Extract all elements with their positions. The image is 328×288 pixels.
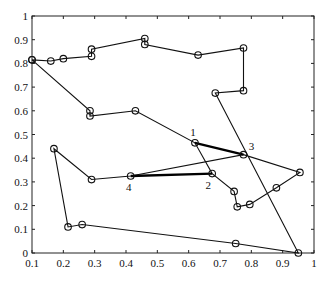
y-tick-label: 0.1 (14, 223, 28, 235)
x-tick-label: 0.5 (150, 257, 164, 269)
city-markers (29, 35, 304, 256)
point-label-3: 3 (249, 140, 255, 152)
x-tick-label: 0.3 (88, 257, 102, 269)
x-tick-label: 0.6 (182, 257, 196, 269)
y-tick-label: 0.6 (14, 105, 28, 117)
y-axis: 00.10.20.30.40.50.60.70.80.91 (14, 10, 314, 259)
y-tick-label: 0 (23, 247, 29, 259)
point-labels: 1234 (126, 126, 255, 193)
x-tick-label: 0.2 (56, 257, 70, 269)
tour-path (32, 39, 300, 253)
y-tick-label: 0.4 (14, 152, 28, 164)
y-tick-label: 0.5 (14, 129, 28, 141)
tour-plot: 0.10.20.30.40.50.60.70.80.91 00.10.20.30… (0, 0, 328, 288)
x-tick-label: 1 (311, 257, 317, 269)
x-tick-label: 0.4 (119, 257, 133, 269)
y-tick-label: 0.7 (14, 81, 28, 93)
point-label-4: 4 (126, 181, 132, 193)
x-tick-label: 0.8 (244, 257, 258, 269)
y-tick-label: 0.9 (14, 34, 28, 46)
point-label-2: 2 (205, 179, 211, 191)
x-tick-label: 0.7 (213, 257, 227, 269)
highlighted-edges (131, 143, 244, 176)
x-axis: 0.10.20.30.40.50.60.70.80.91 (25, 16, 317, 269)
y-tick-label: 1 (23, 10, 29, 22)
plot-frame (32, 16, 314, 253)
y-tick-label: 0.2 (14, 200, 28, 212)
y-tick-label: 0.8 (14, 57, 28, 69)
x-tick-label: 0.9 (276, 257, 290, 269)
y-tick-label: 0.3 (14, 176, 28, 188)
point-label-1: 1 (190, 126, 196, 138)
